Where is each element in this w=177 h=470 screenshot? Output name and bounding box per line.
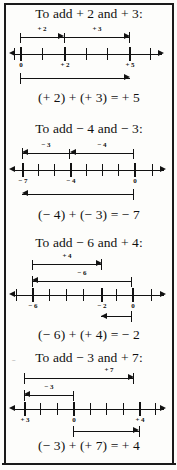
section-2-jump-left-cap <box>22 148 23 159</box>
jump-bar <box>22 194 134 195</box>
section-2-axis-arrow-right <box>160 166 166 172</box>
section-2-number-line-diagram: − 3 − 4 <box>6 136 172 202</box>
section-3-sum-arrow <box>101 311 132 322</box>
section-4-jump-2-start-cap <box>24 390 25 401</box>
jump-start-cap <box>73 426 74 437</box>
section-2-jump-2: − 4 <box>70 148 134 159</box>
section-1-jump-2-label: + 3 <box>64 26 130 33</box>
axis-tick-labeled-plus5 <box>129 47 131 61</box>
section-1-equation: (+ 2) + (+ 3) = + 5 <box>6 91 172 105</box>
section-3-axis-arrow-left <box>9 291 15 297</box>
jump-bar <box>32 264 102 265</box>
axis-tick <box>107 48 108 60</box>
jump-start-cap <box>20 32 21 43</box>
jump-arrowhead-left <box>70 149 76 155</box>
jump-arrowhead-left <box>101 313 107 319</box>
axis-tick <box>40 403 41 415</box>
section-4-jump-2: − 3 <box>24 390 74 401</box>
axis-tick <box>86 48 87 60</box>
axis-tick-labeled-minus7 <box>22 163 24 177</box>
section-4-tick-label-plus4: + 4 <box>129 417 151 424</box>
section-4-jump-2-label: − 3 <box>24 384 74 391</box>
axis-tick <box>16 289 17 301</box>
axis-tick-labeled-0 <box>134 163 136 177</box>
worksheet-page: To add + 2 and + 3: + 2 + 3 <box>0 0 177 470</box>
section-1-axis <box>14 54 162 55</box>
section-4-heading: To add − 3 and + 7: <box>6 345 172 365</box>
section-2-jump-2-label: − 4 <box>70 142 134 149</box>
axis-tick <box>86 164 87 176</box>
jump-bar <box>24 395 74 396</box>
section-1-number-line-diagram: + 2 + 3 <box>6 21 172 87</box>
section-4-sum-arrow <box>73 426 139 437</box>
axis-tick-labeled-minus6 <box>32 288 34 302</box>
axis-tick <box>66 289 67 301</box>
jump-end-cap <box>131 276 132 287</box>
axis-tick <box>14 48 15 60</box>
jump-bar <box>20 78 130 79</box>
section-4-jump-1-end-cap <box>133 373 134 384</box>
axis-tick <box>49 289 50 301</box>
section-2-tick-label-minus4: − 4 <box>60 178 82 185</box>
jump-bar <box>73 431 139 432</box>
section-1-jump-2: + 3 <box>64 32 130 43</box>
axis-tick-labeled-minus2 <box>101 288 103 302</box>
axis-tick <box>42 48 43 60</box>
section-1-sum-arrow <box>20 73 130 84</box>
section-3-jump-2: − 6 <box>32 276 132 287</box>
content-column: To add + 2 and + 3: + 2 + 3 <box>6 5 172 461</box>
axis-tick-labeled-0 <box>20 47 22 61</box>
section-3-equation: (− 6) + (+ 4) = − 2 <box>6 328 172 342</box>
axis-tick <box>106 403 107 415</box>
jump-bar <box>64 37 130 38</box>
axis-tick <box>54 164 55 176</box>
axis-tick <box>116 289 117 301</box>
section-4-jump-1-label: + 7 <box>98 367 120 374</box>
section-4-tick-label-minus3: + 3 <box>14 417 36 424</box>
section-2-tick-label-minus7: − 7 <box>12 178 34 185</box>
section-3-jump-1-label: + 4 <box>32 253 102 260</box>
section-3-jump-2-start-cap <box>32 276 33 287</box>
section-4-axis-arrow-left <box>9 405 15 411</box>
section-2-axis-arrow-left <box>9 166 15 172</box>
jump-bar <box>70 153 134 154</box>
axis-tick <box>90 403 91 415</box>
section-1-tick-label-0: 0 <box>12 62 30 69</box>
jump-end-cap <box>133 189 134 200</box>
section-3-tick-label-minus6: − 6 <box>22 303 44 310</box>
section-1-tick-label-plus5: + 5 <box>119 62 141 69</box>
axis-tick-labeled-0 <box>73 402 75 416</box>
axis-tick-labeled-0 <box>132 288 134 302</box>
axis-tick <box>123 403 124 415</box>
section-4-tick-label-0: 0 <box>65 417 83 424</box>
section-2-sum-arrow <box>22 189 134 200</box>
section-2-equation: (− 4) + (− 3) = − 7 <box>6 208 172 222</box>
section-3-tick-label-0: 0 <box>124 303 142 310</box>
section-3-axis <box>14 295 164 296</box>
axis-tick <box>150 48 151 60</box>
jump-start-cap <box>64 32 65 43</box>
jump-bar <box>24 378 134 379</box>
section-add-negative-4-and-negative-3: To add − 4 and − 3: − 3 − 4 <box>6 117 172 231</box>
section-3-number-line-diagram: + 4 − 6 <box>6 250 172 318</box>
section-1-tick-label-plus2: + 2 <box>54 62 76 69</box>
section-add-negative-6-and-positive-4: To add − 6 and + 4: + 4 − 6 <box>6 231 172 345</box>
axis-tick <box>118 164 119 176</box>
section-4-jump-1: + 7 <box>24 373 134 384</box>
jump-end-cap <box>73 390 74 401</box>
section-4-axis <box>14 409 164 410</box>
section-3-tick-label-minus2: − 2 <box>91 303 113 310</box>
jump-arrowhead-right <box>124 74 130 80</box>
axis-tick-labeled-minus4 <box>70 163 72 177</box>
axis-tick <box>155 403 156 415</box>
axis-tick-labeled-minus3 <box>24 402 26 416</box>
section-1-axis-arrow-right <box>158 50 164 56</box>
section-1-heading: To add + 2 and + 3: <box>6 5 172 21</box>
section-3-jump-1-end-cap <box>101 259 102 270</box>
section-4-number-line-diagram: + 7 − 3 <box>6 365 172 435</box>
section-2-tick-label-0: 0 <box>126 178 144 185</box>
section-4-equation: (− 3) + (+ 7) = + 4 <box>6 439 172 453</box>
section-3-jump-1: + 4 <box>32 259 102 270</box>
section-4-sum-arrow-end-cap <box>139 426 140 437</box>
jump-bar <box>32 281 132 282</box>
